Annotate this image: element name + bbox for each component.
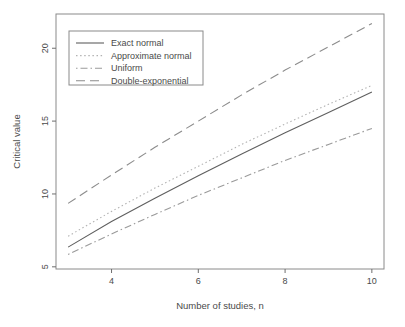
x-axis-tick-label: 10 <box>367 276 377 286</box>
x-axis-tick-label: 6 <box>196 276 201 286</box>
y-axis-title: Critical value <box>11 114 22 168</box>
legend-label-double-exponential: Double-exponential <box>111 76 189 86</box>
series-line-approximate-normal <box>68 85 372 236</box>
figure: 468105101520Number of studies, nCritical… <box>0 0 405 327</box>
legend-label-uniform: Uniform <box>111 63 143 73</box>
legend-label-approximate-normal: Approximate normal <box>111 51 192 61</box>
y-axis-tick-label: 15 <box>40 116 50 126</box>
y-axis-tick-label: 20 <box>40 43 50 53</box>
x-axis-tick-label: 8 <box>283 276 288 286</box>
x-axis-tick-label: 4 <box>109 276 114 286</box>
chart-svg: 468105101520Number of studies, nCritical… <box>0 0 405 327</box>
series-line-uniform <box>68 128 372 254</box>
y-axis-tick-label: 5 <box>40 264 50 269</box>
x-axis-title: Number of studies, n <box>176 300 264 311</box>
y-axis-tick-label: 10 <box>40 189 50 199</box>
series-line-exact-normal <box>68 92 372 247</box>
legend-label-exact-normal: Exact normal <box>111 38 164 48</box>
